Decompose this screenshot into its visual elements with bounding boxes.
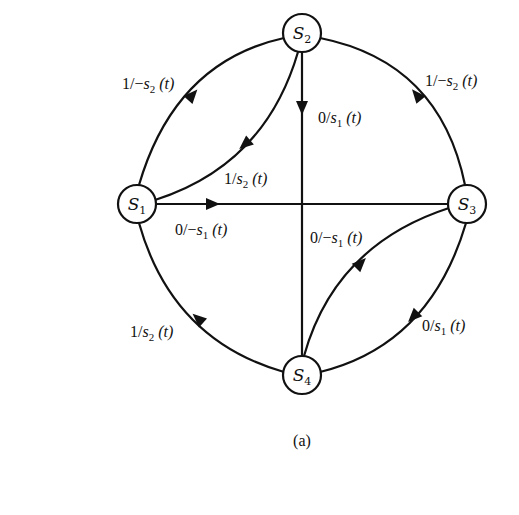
- edge-label-s1-s3: 0/−s1 (t): [175, 221, 227, 241]
- state-transition-diagram: 1/−s2 (t) 1/s2 (t) 0/s1 (t) 0/−s1 (t) 1/…: [0, 0, 519, 515]
- edge-label-s2-s4: 0/s1 (t): [318, 109, 361, 129]
- figure-caption: (a): [293, 432, 311, 450]
- edge-label-s3-s2: 1/−s2 (t): [425, 72, 477, 92]
- arrow-icon: [206, 198, 220, 210]
- arrow-icon: [352, 254, 370, 272]
- edge-label-s4-s1: 1/s2 (t): [130, 323, 173, 343]
- arrow-icon: [404, 308, 422, 326]
- edge-s1-to-s2: [139, 38, 284, 185]
- edge-label-s4-s3: 0/−s1 (t): [310, 229, 362, 249]
- edge-label-s3-s4: 0/s1 (t): [422, 317, 465, 337]
- node-s4: S4: [283, 356, 321, 394]
- node-s1: S1: [118, 185, 156, 223]
- edge-s4-to-s1: [139, 223, 284, 372]
- node-s3: S3: [448, 185, 486, 223]
- edge-label-s1-s2: 1/−s2 (t): [122, 75, 174, 95]
- node-s2: S2: [283, 14, 321, 52]
- arrow-icon: [296, 101, 308, 115]
- edge-label-s2-s1: 1/s2 (t): [224, 170, 267, 190]
